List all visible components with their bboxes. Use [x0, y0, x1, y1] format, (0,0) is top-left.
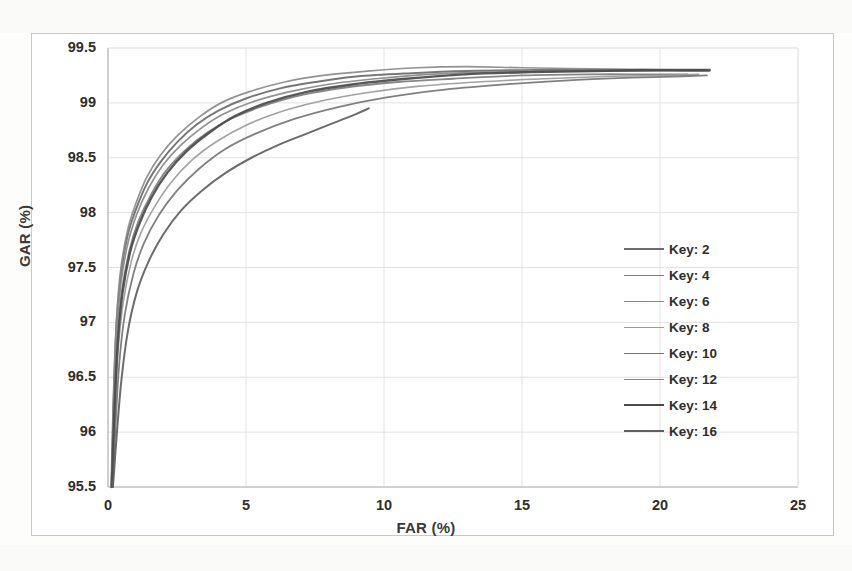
legend-swatch	[624, 404, 664, 406]
y-tick-label: 96.5	[32, 368, 96, 384]
x-tick-label: 5	[226, 497, 266, 513]
y-tick-label: 98	[32, 204, 96, 220]
series-line-key-12	[112, 71, 707, 487]
y-tick-label: 95.5	[32, 478, 96, 494]
scan-margin-bottom	[0, 545, 852, 571]
legend-label: Key: 4	[669, 268, 710, 283]
y-tick-label: 99	[32, 94, 96, 110]
legend-swatch	[624, 301, 664, 302]
x-tick-label: 20	[640, 497, 680, 513]
legend-swatch	[624, 379, 664, 380]
legend-item-key-2[interactable]: Key: 2	[624, 237, 710, 261]
chart-frame: 95.59696.59797.59898.59999.5 0510152025 …	[31, 33, 834, 536]
legend-item-key-8[interactable]: Key: 8	[624, 315, 710, 339]
legend-label: Key: 2	[669, 242, 710, 257]
legend-swatch	[624, 327, 664, 328]
series-line-key-4	[112, 74, 688, 487]
series-lines	[111, 67, 709, 487]
x-axis-title: FAR (%)	[0, 519, 852, 536]
legend-item-key-6[interactable]: Key: 6	[624, 289, 710, 313]
series-line-key-2	[111, 70, 704, 487]
y-tick-label: 96	[32, 423, 96, 439]
legend-item-key-14[interactable]: Key: 14	[624, 393, 717, 417]
legend-label: Key: 16	[669, 424, 717, 439]
legend-swatch	[624, 275, 664, 276]
legend-item-key-12[interactable]: Key: 12	[624, 367, 717, 391]
y-axis-title: GAR (%)	[16, 205, 33, 267]
x-tick-label: 0	[88, 497, 128, 513]
legend-item-key-16[interactable]: Key: 16	[624, 419, 717, 443]
legend-label: Key: 14	[669, 398, 717, 413]
x-tick-label: 25	[778, 497, 818, 513]
legend-swatch	[624, 248, 664, 250]
y-tick-label: 98.5	[32, 149, 96, 165]
x-tick-label: 15	[502, 497, 542, 513]
scan-margin-top	[0, 0, 852, 33]
legend-label: Key: 6	[669, 294, 710, 309]
series-line-key-8	[112, 74, 699, 487]
legend-label: Key: 12	[669, 372, 717, 387]
y-tick-label: 99.5	[32, 39, 96, 55]
legend-item-key-10[interactable]: Key: 10	[624, 341, 717, 365]
figure: 95.59696.59797.59898.59999.5 0510152025 …	[0, 0, 852, 571]
legend-item-key-4[interactable]: Key: 4	[624, 263, 710, 287]
series-line-key-14	[112, 70, 710, 487]
series-line-key-16	[113, 108, 369, 487]
y-tick-label: 97	[32, 313, 96, 329]
series-line-key-6	[112, 67, 710, 487]
legend-label: Key: 8	[669, 320, 710, 335]
plot-area	[32, 34, 833, 535]
y-tick-label: 97.5	[32, 259, 96, 275]
x-tick-label: 10	[364, 497, 404, 513]
legend-swatch	[624, 353, 664, 354]
legend-swatch	[624, 430, 664, 432]
legend-label: Key: 10	[669, 346, 717, 361]
